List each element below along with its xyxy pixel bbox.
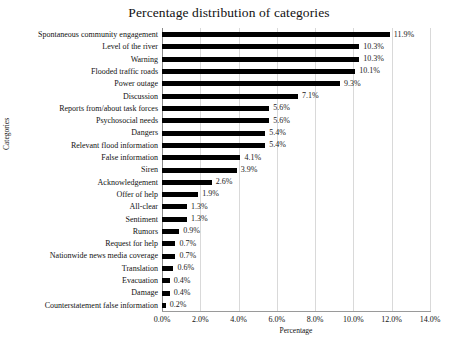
bar	[162, 266, 173, 271]
bar	[162, 192, 198, 197]
x-tick-label: 8.0%	[307, 314, 324, 326]
bar-value-label: 1.9%	[202, 187, 219, 200]
bar	[162, 291, 170, 296]
category-label: Counterstatement false information	[0, 299, 158, 312]
bar-value-label: 10.1%	[359, 64, 380, 77]
bar-value-label: 0.7%	[179, 237, 196, 250]
bar	[162, 44, 359, 49]
bar	[162, 204, 187, 209]
bar	[162, 143, 265, 148]
bar-value-label: 1.3%	[191, 200, 208, 213]
bar-value-label: 0.9%	[183, 224, 200, 237]
bar	[162, 229, 179, 234]
bar	[162, 180, 212, 185]
x-tick-label: 2.0%	[192, 314, 209, 326]
chart-title: Percentage distribution of categories	[0, 5, 458, 21]
bar-value-label: 5.6%	[273, 114, 290, 127]
bar-value-label: 2.6%	[216, 175, 233, 188]
bar-value-label: 5.4%	[269, 126, 286, 139]
bar-value-label: 11.9%	[394, 28, 414, 41]
bar-value-label: 0.4%	[174, 286, 191, 299]
y-axis-title: Categories	[2, 118, 11, 150]
x-axis-line	[162, 311, 431, 312]
gridline-14.0	[430, 28, 431, 311]
y-axis-tick-labels: Spontaneous community engagementLevel of…	[0, 28, 158, 311]
bar	[162, 131, 265, 136]
bar	[162, 254, 175, 259]
bar-value-label: 1.3%	[191, 212, 208, 225]
bar-value-label: 7.1%	[302, 89, 319, 102]
bar-chart: Percentage distribution of categories Sp…	[0, 0, 458, 356]
x-axis-title: Percentage	[162, 326, 430, 335]
bar-value-label: 0.7%	[179, 249, 196, 262]
bar	[162, 81, 340, 86]
bar-value-label: 10.3%	[363, 52, 384, 65]
x-tick-label: 12.0%	[381, 314, 402, 326]
x-tick-label: 0.0%	[154, 314, 171, 326]
bar	[162, 57, 359, 62]
bar	[162, 155, 240, 160]
bar-value-label: 3.9%	[241, 163, 258, 176]
bar	[162, 118, 269, 123]
bar-value-label: 10.3%	[363, 40, 384, 53]
bar-value-label: 5.4%	[269, 138, 286, 151]
bar-value-label: 5.6%	[273, 101, 290, 114]
bar	[162, 241, 175, 246]
x-tick-label: 10.0%	[343, 314, 364, 326]
bar-value-label: 0.6%	[177, 261, 194, 274]
bar-value-label: 0.2%	[170, 298, 187, 311]
x-tick-label: 6.0%	[269, 314, 286, 326]
bar	[162, 168, 237, 173]
bar	[162, 69, 355, 74]
bar-value-label: 0.4%	[174, 274, 191, 287]
bar-value-label: 9.3%	[344, 77, 361, 90]
plot-area: 11.9%10.3%10.3%10.1%9.3%7.1%5.6%5.6%5.4%…	[162, 28, 430, 311]
bar	[162, 278, 170, 283]
bar	[162, 303, 166, 308]
x-tick-label: 14.0%	[420, 314, 441, 326]
x-tick-label: 4.0%	[230, 314, 247, 326]
bar-value-label: 4.1%	[244, 151, 261, 164]
bar	[162, 94, 298, 99]
bar	[162, 217, 187, 222]
bar	[162, 32, 390, 37]
bar	[162, 106, 269, 111]
bar-series: 11.9%10.3%10.3%10.1%9.3%7.1%5.6%5.6%5.4%…	[162, 28, 430, 311]
